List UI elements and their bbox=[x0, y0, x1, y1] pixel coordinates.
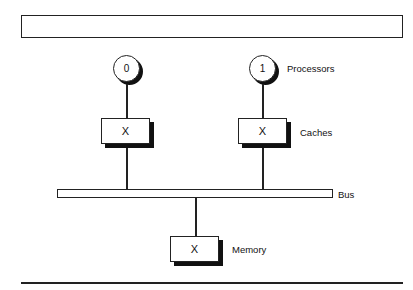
memory-content: X bbox=[191, 243, 198, 255]
processor-0-to-cache-0-edge bbox=[126, 84, 128, 118]
memory-node: X bbox=[170, 236, 219, 262]
cache-1-content: X bbox=[259, 125, 266, 137]
processor-1-node: 1 bbox=[249, 55, 276, 82]
caches-label: Caches bbox=[300, 127, 332, 138]
cache-0-content: X bbox=[122, 125, 129, 137]
bus-to-memory-edge bbox=[195, 198, 197, 236]
bottom-rule bbox=[21, 282, 403, 284]
processor-1-id: 1 bbox=[260, 63, 266, 74]
memory-label: Memory bbox=[232, 244, 266, 255]
processors-label: Processors bbox=[287, 63, 335, 74]
title-frame bbox=[21, 15, 403, 38]
cache-1-to-bus-edge bbox=[262, 148, 264, 189]
bus-label: Bus bbox=[338, 189, 354, 200]
processor-0-node: 0 bbox=[113, 55, 140, 82]
cache-1-node: X bbox=[238, 118, 287, 144]
cache-0-to-bus-edge bbox=[126, 148, 128, 189]
bus-node bbox=[57, 189, 333, 198]
cache-0-node: X bbox=[101, 118, 150, 144]
processor-0-id: 0 bbox=[124, 63, 130, 74]
processor-1-to-cache-1-edge bbox=[262, 84, 264, 118]
